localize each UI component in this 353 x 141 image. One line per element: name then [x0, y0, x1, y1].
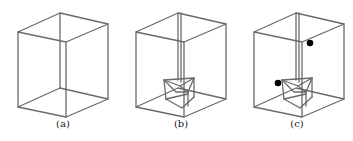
panel-c-box	[254, 13, 344, 117]
panel-label-a: (a)	[43, 118, 83, 129]
panel-label-c: (c)	[277, 118, 317, 129]
panel-a-box	[18, 13, 108, 117]
panel-label-b: (b)	[161, 118, 201, 129]
panel-b-box	[136, 13, 226, 117]
dot-marker-upper	[307, 40, 314, 47]
dot-marker-lower	[275, 80, 282, 87]
